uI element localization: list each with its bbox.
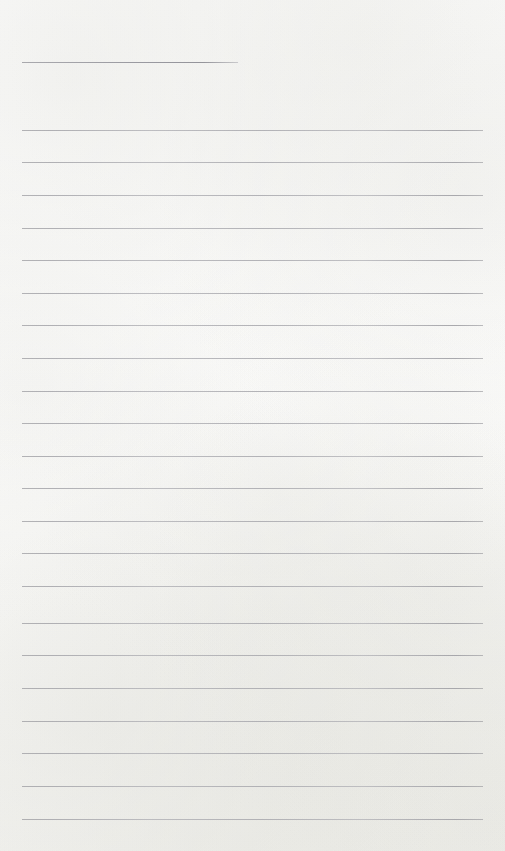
rule-line	[22, 358, 483, 359]
rule-line	[22, 623, 483, 624]
rule-line	[22, 819, 483, 820]
lined-paper-page	[0, 0, 505, 851]
rule-line	[22, 293, 483, 294]
rule-line	[22, 325, 483, 326]
rule-line	[22, 195, 483, 196]
header-rule-line	[22, 62, 238, 63]
rule-line	[22, 162, 483, 163]
rule-line	[22, 586, 483, 587]
rule-line	[22, 721, 483, 722]
rule-line	[22, 130, 483, 131]
rule-line	[22, 521, 483, 522]
rule-line	[22, 456, 483, 457]
rule-line	[22, 655, 483, 656]
rule-line	[22, 786, 483, 787]
rule-line	[22, 260, 483, 261]
rule-line	[22, 488, 483, 489]
rule-line	[22, 423, 483, 424]
rule-line	[22, 391, 483, 392]
paper-grain-overlay	[0, 0, 505, 851]
rule-line	[22, 753, 483, 754]
rule-line	[22, 553, 483, 554]
rule-line	[22, 228, 483, 229]
rule-line	[22, 688, 483, 689]
